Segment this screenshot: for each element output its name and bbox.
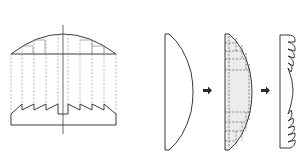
sequence-panel (165, 34, 295, 150)
right-arrow-icon (203, 87, 212, 95)
fresnel-base (11, 114, 116, 125)
projection-panel (11, 25, 116, 134)
plano-convex-lens (165, 34, 193, 150)
fresnel-diagram (0, 0, 301, 163)
segmented-lens (225, 34, 252, 150)
lens-arc (11, 34, 116, 54)
fresnel-lens (280, 35, 295, 148)
fresnel-sawtooth-profile (11, 104, 116, 114)
right-arrow-icon (261, 87, 270, 95)
